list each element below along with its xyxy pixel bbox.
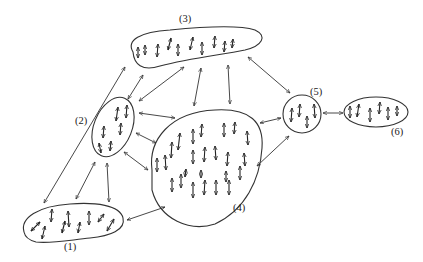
spin-arrow-icon: [42, 226, 45, 239]
cluster-6-spins: [350, 102, 397, 122]
spins: [31, 36, 397, 239]
cluster-3: (3): [131, 13, 262, 68]
cluster-5-outline: [283, 95, 321, 133]
spin-arrow-icon: [379, 102, 380, 114]
spin-arrow-icon: [78, 222, 80, 233]
spin-arrow-icon: [157, 44, 158, 57]
cluster-2: (2): [75, 91, 142, 163]
connection-3-5: [248, 57, 290, 93]
spin-arrow-icon: [244, 153, 245, 166]
connection-2-3-a: [128, 75, 143, 99]
spin-arrow-icon: [215, 146, 216, 160]
connection-3-4-a: [194, 68, 201, 106]
connection-1-4: [127, 207, 165, 220]
cluster-4-label: (4): [233, 202, 246, 214]
cluster-1-label: (1): [64, 241, 77, 253]
cluster-6: (6): [344, 97, 408, 138]
spin-arrow-icon: [185, 169, 186, 177]
spin-arrow-icon: [204, 180, 205, 195]
cluster-6-outline: [344, 97, 408, 127]
connection-2-4-c: [124, 152, 148, 170]
spin-arrow-icon: [232, 39, 233, 48]
spin-arrow-icon: [99, 143, 101, 153]
cluster-2-label: (2): [75, 115, 88, 127]
spin-arrow-icon: [168, 38, 171, 50]
connection-4-5-a: [260, 118, 281, 123]
spin-arrow-icon: [299, 104, 300, 117]
cluster-5-spins: [291, 104, 315, 128]
connection-2-4-a: [139, 113, 175, 118]
cluster-network-diagram: (3) (2) (4) (5) (6) (1): [0, 0, 423, 262]
spin-arrow-icon: [357, 104, 359, 117]
connection-1-2-a: [76, 162, 95, 199]
spin-arrow-icon: [98, 214, 104, 222]
cluster-4: (4): [152, 110, 263, 227]
spin-arrow-icon: [227, 152, 228, 166]
connection-2-3-b: [139, 67, 184, 101]
spin-arrow-icon: [204, 147, 205, 162]
cluster-4-spins: [157, 122, 248, 198]
spin-arrow-icon: [116, 107, 118, 121]
spin-arrow-icon: [214, 36, 215, 48]
spin-arrow-icon: [171, 142, 172, 158]
spin-arrow-icon: [201, 124, 202, 137]
cluster-2-outline: [84, 91, 142, 163]
cluster-1-spins: [31, 209, 114, 239]
spin-arrow-icon: [103, 126, 104, 138]
spin-arrow-icon: [314, 104, 315, 118]
cluster-5: (5): [283, 86, 323, 133]
spin-arrow-icon: [126, 105, 127, 118]
spin-arrow-icon: [110, 141, 111, 151]
spin-arrow-icon: [178, 133, 180, 150]
spin-arrow-icon: [190, 37, 193, 50]
spin-arrow-icon: [62, 221, 65, 233]
spin-arrow-icon: [234, 122, 235, 134]
spin-arrow-icon: [107, 219, 114, 231]
spin-arrow-icon: [247, 131, 248, 145]
spin-arrow-icon: [120, 123, 121, 135]
spin-arrow-icon: [68, 211, 69, 227]
connection-3-4-b: [228, 65, 230, 104]
spin-arrow-icon: [31, 222, 40, 231]
connection-1-2-b: [107, 163, 109, 202]
cluster-2-spins: [99, 105, 127, 153]
cluster-3-label: (3): [179, 13, 192, 25]
cluster-6-label: (6): [391, 126, 404, 138]
spin-arrow-icon: [291, 108, 292, 122]
spin-arrow-icon: [51, 209, 52, 222]
connection-2-4-b: [136, 133, 156, 143]
spin-arrow-icon: [224, 41, 225, 52]
cluster-4-outline: [152, 110, 263, 227]
spin-arrow-icon: [165, 155, 166, 170]
cluster-5-label: (5): [310, 86, 323, 98]
cluster-3-outline: [131, 27, 262, 68]
